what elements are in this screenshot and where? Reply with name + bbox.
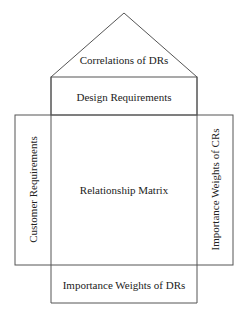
importance-weights-drs-label: Importance Weights of DRs [51, 280, 197, 291]
relationship-matrix-label: Relationship Matrix [51, 185, 197, 196]
customer-requirements-label: Customer Requirements [28, 115, 39, 265]
roof-outline [51, 13, 197, 77]
importance-weights-crs-label: Importance Weights of CRs [210, 115, 221, 265]
roof-label: Correlations of DRs [51, 55, 197, 66]
design-requirements-label: Design Requirements [51, 92, 197, 103]
